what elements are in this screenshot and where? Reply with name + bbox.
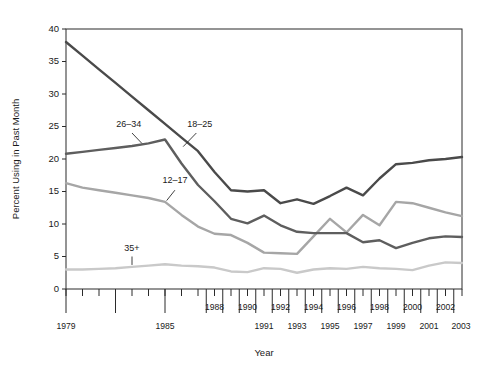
x-tick-label-upper: 1988: [205, 302, 224, 312]
y-axis-title: Percent Using in Past Month: [10, 99, 21, 219]
y-tick-label: 5: [54, 250, 59, 261]
y-tick-label: 0: [54, 283, 59, 294]
series-label-leader: [132, 133, 142, 143]
x-tick-label-lower: 2001: [419, 321, 438, 331]
y-tick-label: 35: [48, 55, 59, 66]
series-lines: [66, 42, 462, 273]
x-tick-label-lower: 1997: [353, 321, 372, 331]
series-line-35+: [66, 262, 462, 272]
y-tick-label: 40: [48, 23, 59, 34]
x-tick-label-lower: 1999: [386, 321, 405, 331]
x-tick-label-upper: 2000: [403, 302, 422, 312]
y-tick-label: 30: [48, 88, 59, 99]
x-tick-label-upper: 1992: [271, 302, 290, 312]
x-tick-label-upper: 2002: [436, 302, 455, 312]
chart-figure: 0510152025303540 18–2526–3412–1735+ 1988…: [0, 0, 489, 369]
y-tick-label: 10: [48, 218, 59, 229]
line-chart-canvas: 0510152025303540 18–2526–3412–1735+ 1988…: [0, 0, 489, 369]
x-tick-label-lower: 1991: [254, 321, 273, 331]
series-label: 26–34: [116, 119, 141, 129]
x-tick-label-lower: 2003: [451, 321, 470, 331]
series-label: 18–25: [187, 119, 212, 129]
y-tick-label: 15: [48, 185, 59, 196]
series-label-leader: [167, 190, 175, 200]
x-tick-label-lower: 1985: [155, 321, 174, 331]
x-tick-label-lower: 1995: [320, 321, 339, 331]
x-tick-label-upper: 1996: [337, 302, 356, 312]
x-tick-label-upper: 1994: [304, 302, 323, 312]
x-tick-label-lower: 1993: [287, 321, 306, 331]
series-label: 12–17: [162, 175, 187, 185]
x-tick-label-upper: 1990: [238, 302, 257, 312]
x-tick-label-lower: 1979: [56, 321, 75, 331]
x-axis-title: Year: [254, 347, 273, 358]
y-axis-ticks: 0510152025303540: [48, 23, 66, 294]
x-tick-label-upper: 1998: [370, 302, 389, 312]
x-axis-tick-labels: 1988199019921994199619982000200219791985…: [56, 302, 470, 331]
series-label: 35+: [124, 243, 139, 253]
y-tick-label: 25: [48, 120, 59, 131]
y-tick-label: 20: [48, 153, 59, 164]
